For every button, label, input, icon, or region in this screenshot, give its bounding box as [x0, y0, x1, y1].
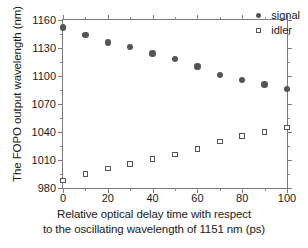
- plot-area: 980101010401070110011301160020406080100: [62, 19, 288, 189]
- data-point-signal: [261, 81, 267, 87]
- y-tick-label: 1070: [32, 98, 56, 110]
- legend-label-idler: idler: [271, 23, 292, 38]
- y-tick-label: 980: [38, 182, 56, 194]
- x-tick-minor-top: [85, 17, 86, 20]
- legend-item-signal: signal: [245, 8, 300, 23]
- y-tick-major-right: [287, 76, 292, 77]
- data-point-idler: [217, 139, 223, 145]
- x-axis-title-line-2: to the oscillating wavelength of 1151 nm…: [0, 222, 308, 237]
- x-tick-minor-top: [130, 17, 131, 20]
- data-point-signal: [172, 56, 178, 62]
- x-tick-major-top: [153, 15, 154, 20]
- y-tick-major: [58, 20, 63, 21]
- data-point-signal: [127, 44, 133, 50]
- legend-label-signal: signal: [271, 8, 300, 23]
- data-point-signal: [60, 24, 66, 30]
- y-tick-label: 1130: [32, 42, 56, 54]
- x-axis-title-line-1: Relative optical delay time with respect: [0, 207, 308, 222]
- data-point-signal: [82, 32, 88, 38]
- y-tick-label: 1010: [32, 154, 56, 166]
- y-tick-major-right: [287, 160, 292, 161]
- data-point-signal: [149, 50, 155, 56]
- x-tick-minor: [175, 188, 176, 191]
- y-tick-major-right: [287, 132, 292, 133]
- signal-marker-icon: [245, 13, 271, 19]
- x-tick-minor: [130, 188, 131, 191]
- data-point-signal: [217, 72, 223, 78]
- legend-item-idler: idler: [245, 23, 300, 38]
- chart-figure: The FOPO output wavelength (nm) 98010101…: [0, 0, 308, 248]
- y-tick-major: [58, 76, 63, 77]
- data-point-idler: [284, 125, 290, 131]
- y-tick-major-right: [287, 104, 292, 105]
- x-tick-major-top: [63, 15, 64, 20]
- x-axis-title: Relative optical delay time with respect…: [0, 207, 308, 237]
- y-tick-minor-right: [287, 146, 290, 147]
- x-tick-minor-top: [220, 17, 221, 20]
- y-tick-label: 1040: [32, 126, 56, 138]
- data-point-idler: [105, 166, 111, 172]
- x-tick-major-top: [197, 15, 198, 20]
- x-tick-label: 0: [60, 192, 66, 204]
- y-tick-minor-right: [287, 62, 290, 63]
- y-tick-minor-right: [287, 118, 290, 119]
- y-tick-major: [58, 48, 63, 49]
- chart-legend: signal idler: [245, 8, 300, 38]
- x-tick-label: 40: [146, 192, 158, 204]
- y-tick-minor: [60, 118, 63, 119]
- y-tick-label: 1160: [32, 14, 56, 26]
- data-point-signal: [105, 39, 111, 45]
- x-tick-label: 80: [236, 192, 248, 204]
- x-tick-minor: [265, 188, 266, 191]
- y-tick-minor: [60, 90, 63, 91]
- y-tick-minor: [60, 34, 63, 35]
- data-point-idler: [239, 133, 245, 139]
- data-point-idler: [150, 156, 156, 162]
- data-point-signal: [239, 77, 245, 83]
- y-tick-major-right: [287, 48, 292, 49]
- y-tick-minor-right: [287, 174, 290, 175]
- data-point-idler: [127, 161, 133, 167]
- data-point-idler: [83, 171, 89, 177]
- data-point-signal: [194, 63, 200, 69]
- y-tick-minor: [60, 62, 63, 63]
- data-point-idler: [195, 146, 201, 152]
- y-axis-title: The FOPO output wavelength (nm): [11, 4, 23, 184]
- x-tick-major-top: [108, 15, 109, 20]
- y-tick-major: [58, 160, 63, 161]
- y-tick-label: 1100: [32, 70, 56, 82]
- x-tick-label: 20: [102, 192, 114, 204]
- x-tick-minor: [85, 188, 86, 191]
- data-point-idler: [60, 178, 66, 184]
- y-tick-minor: [60, 146, 63, 147]
- x-tick-label: 60: [191, 192, 203, 204]
- y-tick-major: [58, 104, 63, 105]
- idler-marker-icon: [245, 28, 271, 33]
- y-tick-major: [58, 132, 63, 133]
- x-tick-minor-top: [175, 17, 176, 20]
- x-tick-major-top: [242, 15, 243, 20]
- data-point-idler: [262, 129, 268, 135]
- data-point-signal: [284, 86, 290, 92]
- x-tick-label: 100: [278, 192, 296, 204]
- y-tick-minor: [60, 174, 63, 175]
- data-point-idler: [172, 152, 178, 158]
- x-tick-minor: [220, 188, 221, 191]
